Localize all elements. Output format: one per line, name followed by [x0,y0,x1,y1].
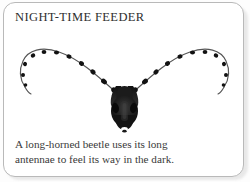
right-antenna [130,49,229,95]
caption: A long-horned beetle uses its long anten… [15,137,235,166]
card-surface: NIGHT-TIME FEEDER [3,2,244,177]
left-antenna [20,49,119,95]
flashcard: NIGHT-TIME FEEDER [0,0,250,182]
caption-line-1: A long-horned beetle uses its long [15,137,235,152]
beetle-head [111,86,139,133]
beetle-illustration [4,23,244,136]
caption-line-2: antennae to feel its way in the dark. [15,152,235,167]
